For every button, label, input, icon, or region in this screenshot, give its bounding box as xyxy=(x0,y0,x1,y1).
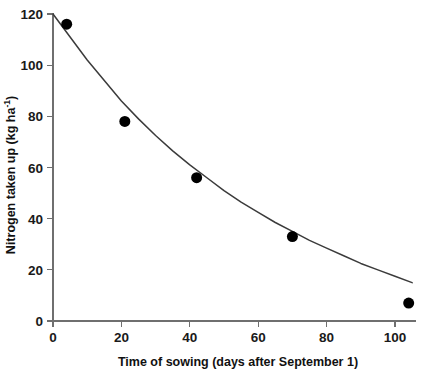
y-axis-ticks: 020406080100120 xyxy=(20,7,53,329)
data-point xyxy=(119,116,130,127)
y-tick-label: 60 xyxy=(28,161,43,176)
scatter-plot: 020406080100120 020406080100 Time of sow… xyxy=(0,0,424,375)
x-tick-label: 80 xyxy=(319,330,334,345)
x-tick-label: 20 xyxy=(114,330,129,345)
svg-text:Nitrogen taken up (kg ha-1): Nitrogen taken up (kg ha-1) xyxy=(2,96,18,254)
fitted-curve xyxy=(53,14,412,283)
y-tick-label: 0 xyxy=(35,314,43,329)
data-point xyxy=(403,298,414,309)
y-tick-label: 80 xyxy=(28,109,43,124)
x-tick-label: 0 xyxy=(49,330,57,345)
y-tick-label: 40 xyxy=(28,212,43,227)
x-tick-label: 40 xyxy=(182,330,197,345)
data-point xyxy=(191,172,202,183)
data-point xyxy=(61,19,72,30)
y-tick-label: 20 xyxy=(28,263,43,278)
y-axis-title-main: Nitrogen taken up (kg ha xyxy=(4,107,18,255)
y-axis-title: Nitrogen taken up (kg ha-1) xyxy=(2,96,18,254)
y-tick-label: 120 xyxy=(20,7,43,22)
data-point xyxy=(287,231,298,242)
y-axis-title-suffix: ) xyxy=(4,96,18,100)
x-axis-title: Time of sowing (days after September 1) xyxy=(118,355,358,369)
y-tick-label: 100 xyxy=(20,58,43,73)
plot-axes xyxy=(53,13,416,321)
x-axis-ticks: 020406080100 xyxy=(49,321,406,345)
x-tick-label: 100 xyxy=(384,330,407,345)
x-tick-label: 60 xyxy=(251,330,266,345)
data-points xyxy=(61,19,414,309)
chart-figure: 020406080100120 020406080100 Time of sow… xyxy=(0,0,424,375)
